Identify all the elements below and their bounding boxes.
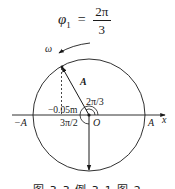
pos-amplitude-label: A	[148, 118, 154, 128]
x-axis-label: x	[162, 115, 166, 125]
omega-label: ω	[45, 44, 52, 54]
origin-point	[87, 113, 90, 116]
projection-label: −0.05m	[48, 105, 77, 115]
rotation-arrow-icon	[59, 43, 90, 53]
figure-caption: 图 3-3 例 3-1 图 2	[0, 181, 175, 189]
phasor-diagram	[0, 0, 175, 189]
vector-tip-point	[61, 66, 64, 69]
neg-amplitude-label: −A	[14, 118, 27, 128]
angle-label-3pi2: 3π/2	[60, 118, 78, 128]
origin-label: O	[93, 118, 100, 128]
angle-label-2pi3: 2π/3	[86, 97, 104, 107]
vector-label: A	[80, 77, 87, 87]
